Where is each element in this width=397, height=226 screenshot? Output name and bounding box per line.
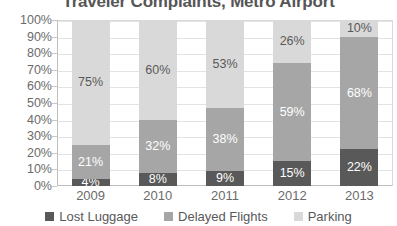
bar-stack: 9%38%53% — [206, 20, 244, 186]
bar-segment[interactable]: 53% — [206, 20, 244, 108]
bar-segment-value-label: 59% — [280, 106, 305, 119]
bar-group[interactable]: 15%59%26% — [273, 20, 311, 186]
bar-segment[interactable]: 9% — [206, 171, 244, 186]
y-axis-tick-label: 80% — [0, 46, 52, 60]
bar-segment[interactable]: 38% — [206, 108, 244, 171]
legend-swatch-icon — [45, 212, 54, 221]
bar-group[interactable]: 9%38%53% — [206, 20, 244, 186]
x-axis-tick-label: 2009 — [57, 188, 124, 203]
bar-segment[interactable]: 15% — [273, 161, 311, 186]
bar-stack: 15%59%26% — [273, 20, 311, 186]
bar-segment-value-label: 10% — [347, 22, 372, 35]
bar-segment[interactable]: 10% — [340, 20, 378, 37]
bar-stack: 22%68%10% — [340, 20, 378, 186]
legend-item[interactable]: Parking — [294, 209, 352, 224]
bar-segment[interactable]: 68% — [340, 37, 378, 150]
x-axis-tick-label: 2010 — [124, 188, 191, 203]
bar-segment-value-label: 8% — [149, 173, 167, 186]
stacked-bar-chart: Traveler Complaints, Metro Airport 0%10%… — [0, 0, 397, 226]
bars-layer: 4%21%75%8%32%60%9%38%53%15%59%26%22%68%1… — [57, 20, 393, 186]
bar-segment-value-label: 38% — [212, 133, 237, 146]
bar-segment[interactable]: 32% — [139, 120, 177, 173]
bar-segment-value-label: 53% — [212, 58, 237, 71]
bar-segment-value-label: 15% — [280, 167, 305, 180]
bar-segment-value-label: 21% — [78, 156, 103, 169]
bar-segment-value-label: 68% — [347, 87, 372, 100]
x-axis-labels: 20092010201120122013 — [57, 188, 393, 206]
legend-label: Parking — [308, 209, 352, 224]
y-axis-tick-label: 100% — [0, 13, 52, 27]
y-axis-tick-mark — [52, 186, 57, 187]
bar-stack: 8%32%60% — [139, 20, 177, 186]
legend-swatch-icon — [164, 212, 173, 221]
y-axis-tick-label: 30% — [0, 129, 52, 143]
y-axis-tick-label: 0% — [0, 179, 52, 193]
bar-segment-value-label: 32% — [145, 140, 170, 153]
bar-segment-value-label: 60% — [145, 64, 170, 77]
bar-segment[interactable]: 4% — [72, 179, 110, 186]
bar-segment[interactable]: 59% — [273, 63, 311, 161]
bar-segment[interactable]: 26% — [273, 20, 311, 63]
y-axis-tick-label: 50% — [0, 96, 52, 110]
chart-title: Traveler Complaints, Metro Airport — [0, 0, 397, 12]
y-axis-tick-label: 60% — [0, 79, 52, 93]
legend-item[interactable]: Delayed Flights — [164, 209, 268, 224]
x-axis-tick-label: 2012 — [259, 188, 326, 203]
bar-segment-value-label: 26% — [280, 35, 305, 48]
bar-group[interactable]: 8%32%60% — [139, 20, 177, 186]
y-axis-labels: 0%10%20%30%40%50%60%70%80%90%100% — [0, 20, 52, 186]
y-axis-tick-label: 90% — [0, 30, 52, 44]
bar-segment-value-label: 9% — [216, 172, 234, 185]
x-axis-tick-label: 2011 — [191, 188, 258, 203]
bar-segment[interactable]: 60% — [139, 20, 177, 120]
bar-segment[interactable]: 75% — [72, 20, 110, 145]
bar-stack: 4%21%75% — [72, 20, 110, 186]
bar-segment[interactable]: 21% — [72, 145, 110, 180]
bar-segment-value-label: 22% — [347, 161, 372, 174]
bar-segment-value-label: 75% — [78, 76, 103, 89]
chart-legend: Lost LuggageDelayed FlightsParking — [0, 206, 397, 226]
bar-segment[interactable]: 22% — [340, 149, 378, 186]
y-axis-tick-label: 10% — [0, 162, 52, 176]
legend-label: Delayed Flights — [178, 209, 268, 224]
bar-group[interactable]: 22%68%10% — [340, 20, 378, 186]
bar-group[interactable]: 4%21%75% — [72, 20, 110, 186]
y-axis-tick-label: 20% — [0, 146, 52, 160]
y-axis-tick-label: 40% — [0, 113, 52, 127]
legend-label: Lost Luggage — [59, 209, 138, 224]
x-axis-tick-label: 2013 — [326, 188, 393, 203]
y-axis-tick-label: 70% — [0, 63, 52, 77]
bar-segment[interactable]: 8% — [139, 173, 177, 186]
legend-item[interactable]: Lost Luggage — [45, 209, 138, 224]
legend-swatch-icon — [294, 212, 303, 221]
